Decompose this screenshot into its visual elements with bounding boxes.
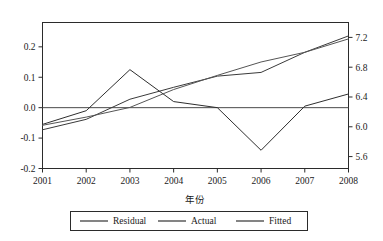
x-tick-label: 2007 [295, 176, 314, 186]
y-tick-label-right: 6.8 [356, 63, 368, 73]
residual-actual-fitted-chart: 0.20.10.0-0.1-0.2 7.26.86.46.05.6 200120… [0, 0, 383, 241]
x-tick-label: 2002 [77, 176, 96, 186]
y-tick-label-left: 0.2 [24, 42, 36, 52]
x-tick-label: 2004 [164, 176, 183, 186]
y-tick-label-left: -0.1 [20, 133, 35, 143]
y-tick-label-right: 5.6 [356, 152, 368, 162]
legend-label-residual: Residual [113, 216, 147, 226]
legend-label-actual: Actual [191, 216, 217, 226]
legend-label-fitted: Fitted [269, 216, 291, 226]
x-axis-title: 年份 [185, 194, 205, 205]
y-tick-label-right: 6.4 [356, 92, 368, 102]
y-tick-label-right: 7.2 [356, 33, 368, 43]
x-tick-label: 2003 [120, 176, 139, 186]
x-tick-label: 2005 [208, 176, 227, 186]
y-tick-label-right: 6.0 [356, 122, 368, 132]
chart-container: 0.20.10.0-0.1-0.2 7.26.86.46.05.6 200120… [0, 0, 383, 241]
y-tick-label-left: 0.1 [24, 73, 36, 83]
y-tick-label-left: -0.2 [20, 164, 35, 174]
x-tick-label: 2001 [33, 176, 52, 186]
x-tick-label: 2006 [252, 176, 271, 186]
x-tick-label: 2008 [339, 176, 358, 186]
y-tick-label-left: 0.0 [24, 103, 36, 113]
